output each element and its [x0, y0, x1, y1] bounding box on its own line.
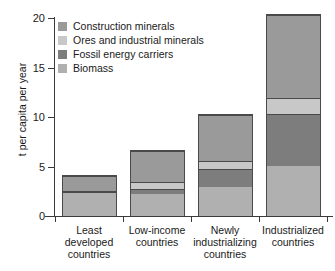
- bar-segment-ores-and-industrial-minerals[interactable]: [131, 182, 184, 189]
- stacked-bar-chart: t per capita per year 05101520 Leastdeve…: [0, 0, 335, 271]
- bar-segment-fossil-energy-carriers[interactable]: [267, 114, 320, 166]
- x-tick-3: [259, 217, 260, 222]
- x-tick-4: [327, 217, 328, 222]
- legend-item-label: Ores and industrial minerals: [73, 35, 204, 46]
- y-tick-20: [48, 18, 54, 19]
- bar-1[interactable]: [62, 175, 117, 216]
- x-label-line: countries: [185, 248, 265, 260]
- x-tick-2: [191, 217, 192, 222]
- bar-segment-ores-and-industrial-minerals[interactable]: [267, 98, 320, 114]
- bar-segment-biomass[interactable]: [63, 193, 116, 216]
- y-tick-label-20: 20: [5, 13, 45, 24]
- legend-swatch-icon: [58, 36, 67, 45]
- legend-swatch-icon: [58, 50, 67, 59]
- bar-2[interactable]: [130, 150, 185, 216]
- bar-segment-fossil-energy-carriers[interactable]: [199, 169, 252, 187]
- x-label-line: countries: [49, 248, 129, 260]
- legend-swatch-icon: [58, 64, 67, 73]
- bar-segment-construction-minerals[interactable]: [267, 15, 320, 98]
- x-label-line: Industrialized: [253, 224, 333, 236]
- bar-segment-ores-and-industrial-minerals[interactable]: [199, 161, 252, 169]
- bar-4[interactable]: [266, 14, 321, 216]
- bar-segment-biomass[interactable]: [267, 166, 320, 216]
- bar-segment-biomass[interactable]: [131, 194, 184, 216]
- bar-segment-construction-minerals[interactable]: [199, 115, 252, 161]
- y-tick-label-15: 15: [5, 63, 45, 74]
- bar-segment-construction-minerals[interactable]: [131, 151, 184, 182]
- bar-segment-construction-minerals[interactable]: [63, 176, 116, 190]
- legend-item-label: Biomass: [73, 63, 113, 74]
- chart-legend: Construction mineralsOres and industrial…: [58, 19, 204, 75]
- y-tick-label-0: 0: [5, 211, 45, 222]
- legend-item-3[interactable]: Fossil energy carriers: [58, 47, 204, 61]
- x-tick-1: [123, 217, 124, 222]
- y-tick-10: [48, 117, 54, 118]
- y-tick-15: [48, 68, 54, 69]
- legend-swatch-icon: [58, 22, 67, 31]
- x-label-line: countries: [253, 236, 333, 248]
- x-label-4: Industrializedcountries: [253, 224, 333, 248]
- legend-item-1[interactable]: Construction minerals: [58, 19, 204, 33]
- legend-item-label: Construction minerals: [73, 21, 175, 32]
- y-tick-0: [48, 216, 54, 217]
- y-axis-title: t per capita per year: [17, 40, 28, 180]
- legend-item-label: Fossil energy carriers: [73, 49, 173, 60]
- bar-3[interactable]: [198, 114, 253, 216]
- y-tick-label-10: 10: [5, 112, 45, 123]
- bar-segment-biomass[interactable]: [199, 187, 252, 216]
- y-tick-label-5: 5: [5, 162, 45, 173]
- legend-item-2[interactable]: Ores and industrial minerals: [58, 33, 204, 47]
- legend-item-4[interactable]: Biomass: [58, 61, 204, 75]
- x-tick-0: [55, 217, 56, 222]
- x-axis-line: [45, 216, 333, 217]
- y-tick-5: [48, 167, 54, 168]
